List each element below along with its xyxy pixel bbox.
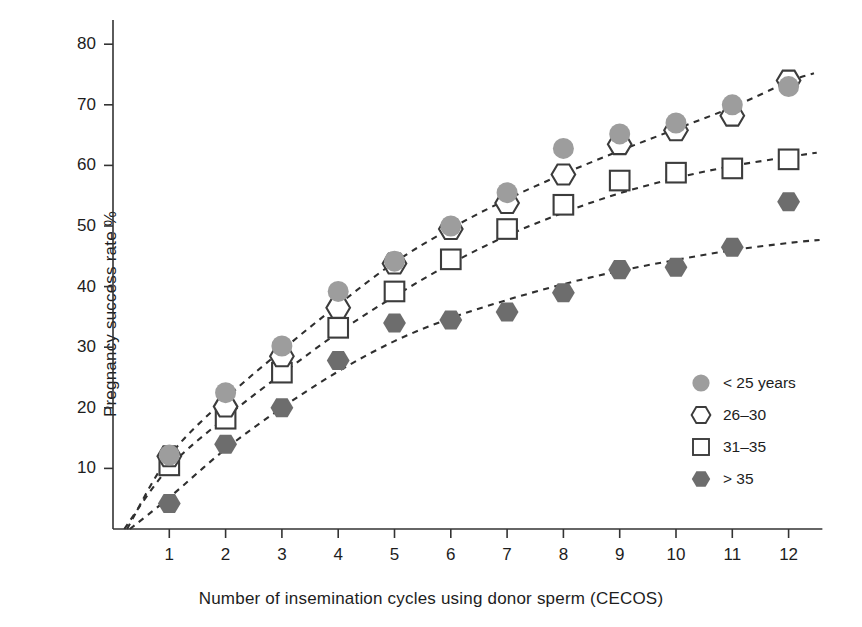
legend: < 25 years26–3031–35> 35 (688, 370, 796, 498)
legend-item-3: 31–35 (688, 434, 796, 460)
legend-label: > 35 (723, 470, 754, 488)
legend-label: 31–35 (723, 438, 766, 456)
data-point-filled-hexagon (158, 494, 181, 513)
data-point-open-square (441, 250, 461, 270)
data-point-filled-hexagon (214, 435, 237, 454)
data-point-filled-circle (722, 94, 743, 115)
chart-figure: Pregnancy success rate % Number of insem… (0, 0, 862, 627)
filled-hexagon-icon (688, 468, 714, 490)
data-point-filled-circle (159, 445, 180, 466)
data-point-filled-circle (553, 138, 574, 159)
data-point-open-square (610, 171, 630, 191)
data-point-filled-circle (271, 335, 292, 356)
legend-label: 26–30 (723, 406, 766, 424)
open-hexagon-icon (688, 404, 714, 426)
data-point-filled-circle (609, 123, 630, 144)
legend-item-2: 26–30 (688, 402, 796, 428)
data-point-filled-hexagon (608, 260, 631, 279)
plot-area (0, 0, 862, 627)
data-point-filled-circle (328, 281, 349, 302)
data-point-filled-hexagon (496, 303, 519, 322)
data-point-filled-hexagon (439, 310, 462, 329)
open-square-icon (688, 436, 714, 458)
data-point-filled-circle (497, 182, 518, 203)
data-point-filled-hexagon (383, 313, 406, 332)
data-point-filled-hexagon (777, 192, 800, 211)
data-point-open-square (554, 195, 574, 215)
data-point-filled-circle (778, 76, 799, 97)
data-point-filled-circle (666, 112, 687, 133)
data-point-open-square (666, 163, 686, 183)
data-point-open-square (779, 150, 799, 170)
legend-item-4: > 35 (688, 466, 796, 492)
filled-circle-icon (688, 372, 714, 394)
data-point-open-square (328, 318, 348, 338)
data-point-filled-circle (215, 382, 236, 403)
data-point-filled-circle (384, 251, 405, 272)
data-point-open-hexagon (552, 165, 576, 185)
data-point-filled-hexagon (327, 351, 350, 370)
data-point-open-square (497, 219, 517, 239)
data-point-filled-hexagon (721, 238, 744, 257)
legend-item-1: < 25 years (688, 370, 796, 396)
data-point-open-square (723, 159, 743, 179)
data-point-filled-circle (440, 216, 461, 237)
legend-label: < 25 years (723, 374, 796, 392)
data-point-open-square (385, 282, 405, 302)
